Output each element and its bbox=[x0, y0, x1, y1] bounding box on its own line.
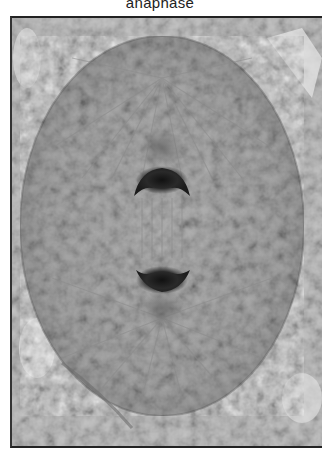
micrograph-frame bbox=[10, 16, 322, 448]
micrograph-image bbox=[12, 18, 322, 448]
figure-caption: anaphase bbox=[0, 0, 320, 11]
